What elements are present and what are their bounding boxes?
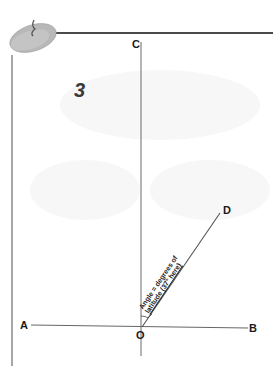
diagram-lines — [0, 0, 273, 366]
step-number: 3 — [74, 80, 85, 100]
point-label-o: O — [136, 330, 145, 341]
point-label-d: D — [223, 205, 231, 216]
point-label-a: A — [20, 320, 28, 331]
point-label-c: C — [132, 39, 140, 50]
point-label-b: B — [249, 323, 257, 334]
angle-arc — [141, 316, 148, 318]
line-ab — [31, 325, 248, 328]
diagram-canvas: 3 C D A B O Angle = degrees of latitude … — [0, 0, 273, 366]
line-od — [142, 213, 220, 327]
pushpin-icon — [6, 18, 60, 58]
